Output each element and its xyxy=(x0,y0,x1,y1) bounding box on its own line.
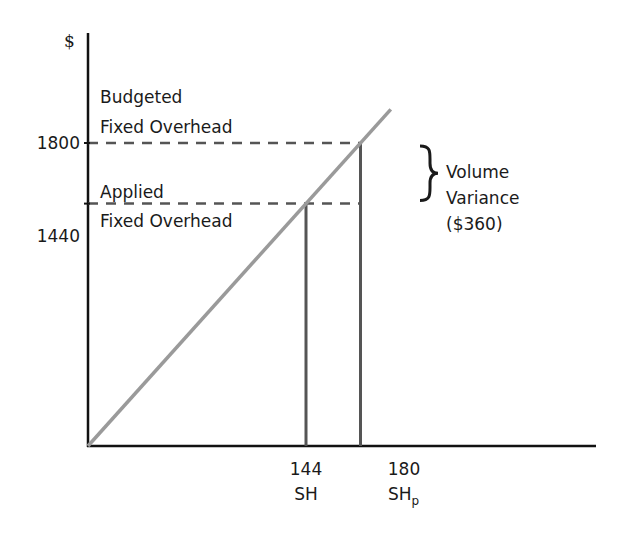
x-tick-label-144: 144 xyxy=(290,459,322,479)
x-tick-label-180: 180 xyxy=(388,459,420,479)
x-tick-sublabel-shp-subscript: p xyxy=(412,494,420,508)
series-line-applied-overhead xyxy=(88,109,391,446)
y-tick-label-1440: 1440 xyxy=(37,226,80,246)
budgeted-annotation-line-2: Fixed Overhead xyxy=(100,117,233,137)
volume-variance-chart: $ 1800 1440 Budgeted Fixed Overhead Appl… xyxy=(0,0,620,534)
applied-annotation-line-2: Fixed Overhead xyxy=(100,211,233,231)
x-tick-sublabel-shp-main: SH xyxy=(388,484,412,504)
variance-brace xyxy=(420,146,438,201)
variance-annotation-line-1: Volume xyxy=(446,162,509,182)
variance-annotation-line-3: ($360) xyxy=(446,214,503,234)
y-axis-label: $ xyxy=(64,31,75,51)
x-tick-sublabel-sh: SH xyxy=(294,484,318,504)
applied-annotation-line-1: Applied xyxy=(100,182,164,202)
budgeted-annotation-line-1: Budgeted xyxy=(100,87,182,107)
x-tick-sublabel-shp: SHp xyxy=(388,484,419,508)
y-tick-label-1800: 1800 xyxy=(37,133,80,153)
variance-annotation-line-2: Variance xyxy=(446,188,519,208)
